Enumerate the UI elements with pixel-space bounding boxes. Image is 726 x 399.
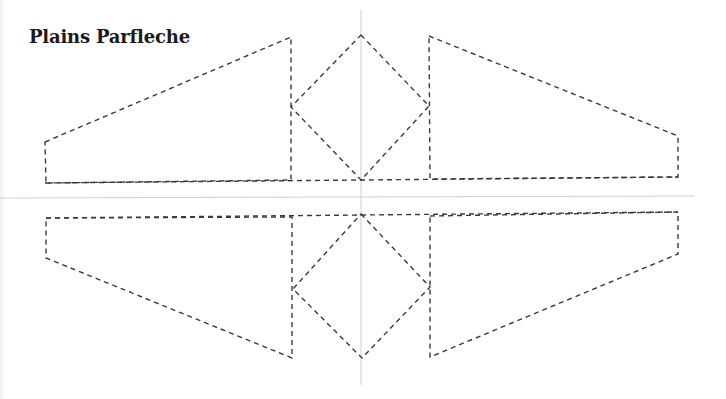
horizontal-fold-guide xyxy=(0,196,695,198)
top-diamond xyxy=(291,35,429,180)
bottom-right-flap xyxy=(430,212,678,357)
bottom-half xyxy=(46,212,678,358)
top-left-flap xyxy=(45,37,291,183)
parfleche-pattern xyxy=(0,0,726,399)
bottom-left-flap xyxy=(46,217,292,358)
top-right-flap xyxy=(429,36,678,179)
